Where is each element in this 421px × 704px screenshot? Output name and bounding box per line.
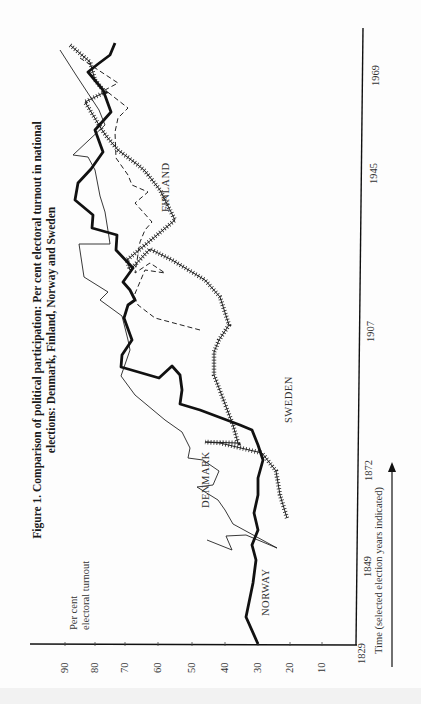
norway-line xyxy=(75,43,263,644)
figure-title-line-2: elections: Denmark, Finland, Norway and … xyxy=(44,100,58,560)
time-arrow-icon xyxy=(388,462,396,667)
denmark-label: DENMARK xyxy=(200,451,211,508)
sweden-line xyxy=(70,45,287,518)
turnout-axis-line xyxy=(30,644,357,645)
turnout-tick-60: 60 xyxy=(152,663,163,674)
turnout-tick-90: 90 xyxy=(59,663,70,674)
year-tick-1907: 1907 xyxy=(365,321,376,342)
turnout-tick-80: 80 xyxy=(89,663,100,674)
norway-label: NORWAY xyxy=(260,568,271,616)
sweden-label: SWEDEN xyxy=(283,376,294,423)
finland-label: FINLAND xyxy=(160,162,171,212)
year-tick-1945: 1945 xyxy=(368,163,379,184)
sweden-line-hatching xyxy=(70,45,287,518)
turnout-axis-title-line-2: electoral turnout xyxy=(80,561,92,630)
turnout-axis-title: Per cent electoral turnout xyxy=(68,561,92,630)
year-tick-1872: 1872 xyxy=(363,460,374,481)
year-tick-1829: 1829 xyxy=(356,643,367,664)
turnout-tick-10: 10 xyxy=(316,663,327,674)
turnout-tick-50: 50 xyxy=(186,663,197,674)
turnout-tick-40: 40 xyxy=(219,663,230,674)
page-bottom-edge xyxy=(0,688,421,704)
denmark-line xyxy=(60,50,277,550)
turnout-tick-30: 30 xyxy=(252,663,263,674)
turnout-axis-title-line-1: Per cent xyxy=(68,561,80,630)
turnout-tick-70: 70 xyxy=(119,663,130,674)
year-tick-1849: 1849 xyxy=(362,556,373,577)
year-tick-1969: 1969 xyxy=(370,65,381,86)
turnout-tick-20: 20 xyxy=(284,663,295,674)
figure-title-line-1: Figure 1. Comparison of political partic… xyxy=(30,100,44,560)
time-axis-line xyxy=(356,28,363,645)
time-axis-title: Time (selected election years indicated) xyxy=(373,487,385,654)
chart-canvas xyxy=(0,0,421,704)
figure-title: Figure 1. Comparison of political partic… xyxy=(30,100,58,560)
figure-page: Figure 1. Comparison of political partic… xyxy=(0,0,421,704)
finland-line xyxy=(80,58,200,330)
